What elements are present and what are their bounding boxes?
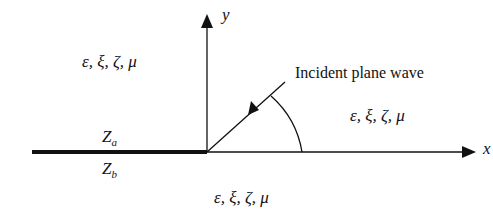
impedance-upper-subscript: a xyxy=(111,136,117,148)
x-axis-label: x xyxy=(483,139,491,159)
incidence-angle-arc xyxy=(271,96,302,152)
incident-wave-label: Incident plane wave xyxy=(295,64,424,82)
incident-wave-arrow-icon xyxy=(248,101,259,115)
y-axis-label: y xyxy=(222,5,230,25)
incident-wave-ray xyxy=(207,82,285,152)
y-axis-arrow-icon xyxy=(201,14,213,28)
diagram-canvas: y x ε, ξ, ζ, μ ε, ξ, ζ, μ ε, ξ, ζ, μ Inc… xyxy=(0,0,493,221)
region-upper-right-params: ε, ξ, ζ, μ xyxy=(350,106,405,126)
impedance-lower-subscript: b xyxy=(111,168,117,180)
impedance-upper-label: Za xyxy=(102,127,117,148)
impedance-lower-label: Zb xyxy=(102,159,117,180)
x-axis-arrow-icon xyxy=(462,146,476,158)
region-lower-params: ε, ξ, ζ, μ xyxy=(214,188,269,208)
region-upper-left-params: ε, ξ, ζ, μ xyxy=(82,52,137,72)
